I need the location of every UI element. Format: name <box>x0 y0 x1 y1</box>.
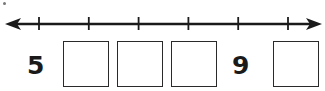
answer-box-3[interactable] <box>171 41 217 87</box>
label-five: 5 <box>27 52 44 80</box>
number-line <box>0 0 325 40</box>
answer-box-2[interactable] <box>117 41 163 87</box>
answer-box-1[interactable] <box>63 41 109 87</box>
label-nine: 9 <box>232 52 249 80</box>
answer-box-4[interactable] <box>273 41 319 87</box>
